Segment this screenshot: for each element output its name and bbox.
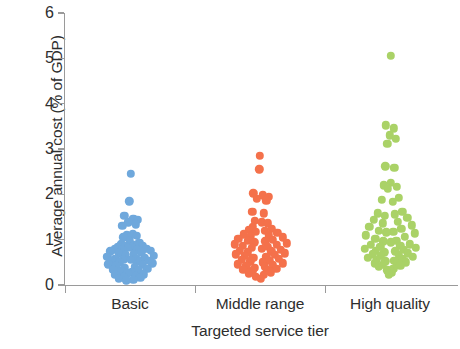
x-category-label-middle-range: Middle range (216, 295, 304, 313)
y-tick-mark (58, 12, 64, 13)
y-tick-label-text: 6 (20, 5, 54, 21)
data-point (381, 162, 389, 170)
data-point (248, 207, 256, 215)
y-tick-mark (58, 194, 64, 195)
x-axis-title: Targeted service tier (65, 322, 455, 340)
data-point (382, 228, 390, 236)
data-point (279, 259, 287, 267)
y-tick-label: 2 (12, 186, 54, 202)
x-tick-mark (65, 286, 66, 293)
y-tick-label: 1 (12, 232, 54, 248)
data-point (262, 196, 270, 204)
y-tick-mark (58, 284, 64, 285)
data-point (255, 165, 263, 173)
data-point (257, 274, 265, 282)
data-point (122, 276, 130, 284)
x-category-label-high-quality: High quality (350, 295, 430, 313)
data-point (377, 196, 385, 204)
y-tick-mark (58, 239, 64, 240)
data-point (375, 263, 383, 271)
y-tick-label: 4 (12, 96, 54, 112)
x-tick-mark (195, 286, 196, 293)
y-tick-mark (58, 58, 64, 59)
data-point (257, 245, 265, 253)
data-point (118, 222, 126, 230)
data-point (411, 229, 419, 237)
data-point (125, 197, 133, 205)
strip-plot-chart: Average annual cost (% of GDP) 0123456 B… (0, 0, 460, 349)
data-point (397, 225, 405, 233)
data-point (126, 170, 134, 178)
data-point (136, 274, 144, 282)
y-tick-label: 0 (12, 277, 54, 293)
data-point (396, 262, 404, 270)
data-point (385, 270, 393, 278)
y-tick-label-text: 3 (20, 141, 54, 157)
plot-area (65, 13, 455, 285)
y-tick-label-text: 4 (20, 96, 54, 112)
y-tick-label: 3 (12, 141, 54, 157)
y-tick-label-text: 0 (20, 277, 54, 293)
x-category-label-basic: Basic (111, 295, 148, 313)
y-tick-mark (58, 103, 64, 104)
data-point (365, 223, 373, 231)
data-point (388, 197, 396, 205)
data-point (259, 209, 267, 217)
data-point (384, 185, 392, 193)
x-axis-line (58, 285, 458, 286)
data-point (408, 221, 416, 229)
y-tick-mark (58, 148, 64, 149)
x-tick-mark (325, 286, 326, 293)
data-point (390, 164, 398, 172)
y-tick-label-text: 1 (20, 232, 54, 248)
data-point (393, 183, 401, 191)
data-point (387, 238, 395, 246)
data-point (256, 152, 264, 160)
y-tick-label-text: 2 (20, 186, 54, 202)
data-point (362, 231, 370, 239)
data-point (132, 220, 140, 228)
y-tick-label-text: 5 (20, 50, 54, 66)
data-point (386, 52, 394, 60)
data-point (392, 135, 400, 143)
y-tick-label: 5 (12, 50, 54, 66)
data-point (409, 253, 417, 261)
data-point (383, 139, 391, 147)
data-point (267, 268, 275, 276)
data-point (412, 244, 420, 252)
y-tick-label: 6 (12, 5, 54, 21)
data-point (253, 195, 261, 203)
